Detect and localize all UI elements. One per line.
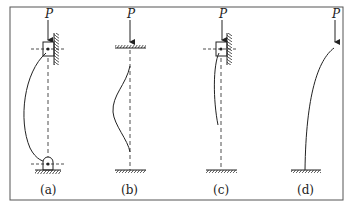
panel-label-a: (a) — [40, 183, 57, 197]
panel-c: P (c) — [203, 7, 238, 197]
load-label-d: P — [331, 7, 341, 21]
load-label-c: P — [218, 7, 228, 21]
buckling-diagram: P (a) P (b) P — [0, 0, 353, 207]
panel-b: P (b) — [113, 7, 146, 197]
buckled-column-c — [214, 53, 219, 125]
panel-d: P (d) — [291, 7, 341, 197]
buckled-column-b — [113, 66, 130, 152]
buckled-column-d — [305, 48, 334, 170]
panel-a: P (a) — [24, 7, 66, 197]
load-label-a: P — [44, 7, 54, 21]
buckled-column-a — [24, 53, 48, 162]
panel-label-b: (b) — [121, 183, 138, 197]
load-label-b: P — [126, 7, 136, 21]
panel-label-c: (c) — [213, 183, 229, 197]
panel-label-d: (d) — [297, 183, 314, 197]
